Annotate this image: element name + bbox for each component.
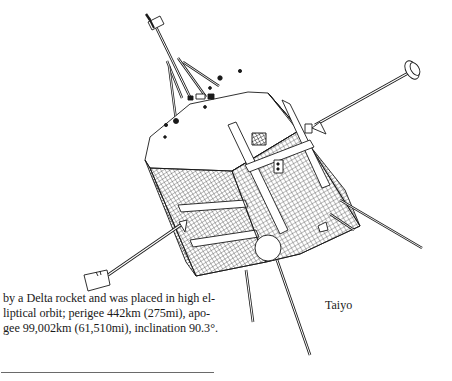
article-line: gee 99,002km (61,510mi), inclination 90.… [3,321,243,336]
figure-caption: Taiyo [325,298,352,312]
footnote-divider [1,372,214,373]
article-line: by a Delta rocket and was placed in high… [3,291,243,306]
article-body-text: by a Delta rocket and was placed in high… [3,291,243,337]
article-line: liptical orbit; perigee 442km (275mi), a… [3,306,243,321]
